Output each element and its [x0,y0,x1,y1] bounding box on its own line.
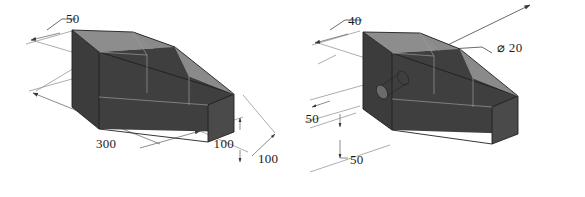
left-solid-body [72,30,234,142]
dimension-label-50-lower: 50 [350,152,364,167]
figure-right: 40 ⌀ 20 50 50 [305,5,530,172]
dimension-label-50-left: 50 [66,11,80,26]
dimension-label-100-depth: 100 [258,151,278,166]
dimension-label-diameter-20: ⌀ 20 [497,40,522,55]
dimension-label-300: 300 [96,136,116,151]
figure-left: 50 300 100 100 [26,11,278,166]
technical-drawing-canvas: 50 300 100 100 [0,0,585,197]
dimension-label-50-upper: 50 [305,111,319,126]
dimension-right-50-lower [340,140,348,158]
dimension-label-40: 40 [348,13,362,28]
right-solid-body [363,32,518,144]
drawing-sheet: 50 300 100 100 [0,0,585,197]
